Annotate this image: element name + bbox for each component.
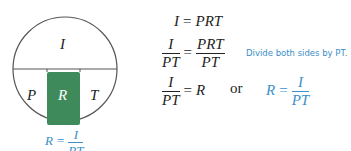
- divide-note: Divide both sides by PT.: [246, 48, 347, 58]
- alt-equation: R=IPT: [266, 75, 309, 108]
- equation-line-1: I=PRT: [174, 13, 222, 30]
- label-t: T: [90, 87, 98, 104]
- diagram-caption: R=IPT: [45, 128, 83, 151]
- label-r: R: [58, 87, 67, 104]
- equation-line-3: IPT=R: [162, 75, 205, 108]
- label-p: P: [27, 87, 36, 104]
- label-i: I: [60, 36, 65, 53]
- or-text: or: [230, 80, 243, 97]
- equation-line-2: IPT=PRTPT: [162, 37, 225, 70]
